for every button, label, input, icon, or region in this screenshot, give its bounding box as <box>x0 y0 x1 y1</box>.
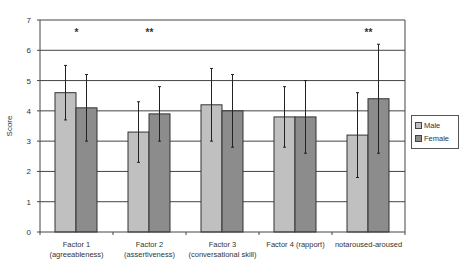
significance-marker: ** <box>146 27 154 38</box>
x-category-label: (conversational skill) <box>189 250 257 259</box>
y-tick-label: 7 <box>27 16 32 25</box>
significance-marker: * <box>75 27 79 38</box>
legend: Male Female <box>411 115 459 149</box>
x-category-label: Factor 4 (rapport) <box>266 240 325 249</box>
y-axis-title: Score <box>5 115 14 136</box>
x-category-label: (assertiveness) <box>124 250 175 259</box>
x-category-label: notaroused-aroused <box>335 240 402 249</box>
x-category-labels: Factor 1(agreeableness)Factor 2(assertiv… <box>49 240 402 259</box>
bars <box>55 93 389 232</box>
y-tick-label: 5 <box>27 77 32 86</box>
x-category-label: Factor 3 <box>209 240 237 249</box>
legend-label-male: Male <box>424 121 440 130</box>
y-tick-label: 1 <box>27 198 32 207</box>
legend-item-female: Female <box>415 132 458 145</box>
legend-swatch-female <box>415 135 422 142</box>
y-tick-label: 2 <box>27 167 32 176</box>
x-category-label: Factor 1 <box>63 240 91 249</box>
legend-item-male: Male <box>415 119 458 132</box>
y-tick-labels: 01234567 <box>27 16 32 237</box>
significance-markers: ***** <box>75 27 373 38</box>
legend-label-female: Female <box>424 134 449 143</box>
y-tick-label: 0 <box>27 228 32 237</box>
bar-chart: 01234567 Factor 1(agreeableness)Factor 2… <box>0 0 466 273</box>
y-tick-label: 4 <box>27 107 32 116</box>
y-tick-label: 3 <box>27 137 32 146</box>
legend-swatch-male <box>415 122 422 129</box>
y-tick-label: 6 <box>27 46 32 55</box>
x-category-label: (agreeableness) <box>49 250 104 259</box>
x-category-label: Factor 2 <box>136 240 164 249</box>
significance-marker: ** <box>365 27 373 38</box>
